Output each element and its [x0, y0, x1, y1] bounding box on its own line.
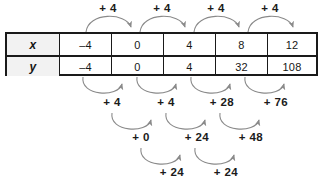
cell-y-0: –4: [59, 57, 111, 76]
arrow-label-top-3: + 4: [207, 2, 225, 14]
arrow-label-r2-1: + 4: [103, 96, 121, 108]
arrow-top-4: [248, 16, 293, 32]
arrow-r3-3: [220, 113, 259, 129]
arrow-top-3: [194, 16, 239, 32]
arrow-layer: [0, 0, 329, 182]
arrow-r2-1: [83, 77, 122, 93]
arrow-label-r4-2: + 24: [214, 166, 238, 178]
row-label-x: x: [7, 34, 59, 55]
function-table: x –4 0 4 8 12 y –4 0 4 32 108: [5, 32, 318, 76]
arrow-r2-3: [191, 77, 230, 93]
arrow-label-r3-3: + 48: [239, 131, 263, 143]
arrow-r2-2: [137, 77, 176, 93]
arrow-label-top-2: + 4: [153, 2, 171, 14]
cell-y-2: 4: [163, 57, 215, 76]
arrow-top-2: [140, 16, 185, 32]
figure-canvas: x –4 0 4 8 12 y –4 0 4 32 108 + 4 + 4 + …: [0, 0, 329, 182]
table-row-x: x –4 0 4 8 12: [7, 34, 316, 55]
arrow-r4-1: [141, 148, 180, 164]
cell-x-4: 12: [267, 34, 316, 55]
table-row-y: y –4 0 4 32 108: [7, 55, 316, 76]
arrow-label-r3-2: + 24: [185, 131, 209, 143]
arrow-label-r2-4: + 76: [264, 96, 288, 108]
arrow-label-r4-1: + 24: [160, 166, 184, 178]
arrow-label-r2-3: + 28: [210, 96, 234, 108]
arrow-label-r2-2: + 4: [157, 96, 175, 108]
arrow-r4-2: [195, 148, 234, 164]
arrow-r3-2: [166, 113, 205, 129]
cell-x-3: 8: [215, 34, 267, 55]
cell-y-4: 108: [267, 57, 316, 76]
row-label-y: y: [7, 57, 59, 76]
cell-x-2: 4: [163, 34, 215, 55]
cell-y-3: 32: [215, 57, 267, 76]
arrow-label-top-1: + 4: [99, 2, 117, 14]
cell-x-0: –4: [59, 34, 111, 55]
arrow-label-top-4: + 4: [261, 2, 279, 14]
cell-y-1: 0: [111, 57, 163, 76]
arrow-r3-1: [112, 113, 151, 129]
arrow-label-r3-1: + 0: [132, 131, 150, 143]
cell-x-1: 0: [111, 34, 163, 55]
arrow-top-1: [86, 16, 131, 32]
arrow-r2-4: [245, 77, 284, 93]
